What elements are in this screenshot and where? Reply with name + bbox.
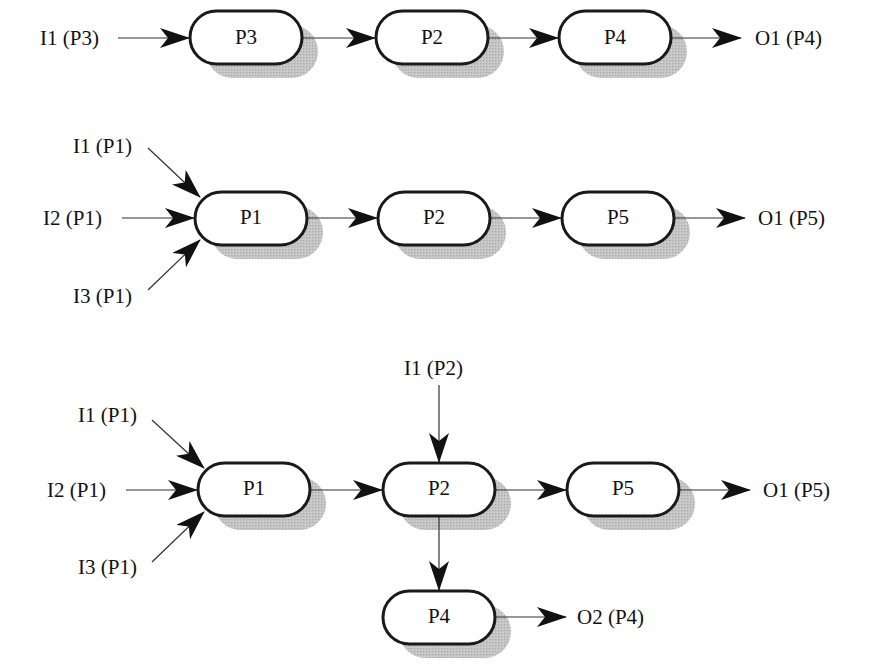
process-node-p5: P5	[562, 192, 674, 245]
process-node-p2: P2	[376, 11, 488, 64]
process-node-p3: P3	[190, 11, 302, 64]
process-node-p2: P2	[378, 192, 490, 245]
edge-input-i3-to-p1	[148, 240, 200, 290]
process-node-p1: P1	[195, 192, 307, 245]
node-label: P1	[240, 205, 262, 229]
output-label-o1: O1 (P5)	[763, 478, 830, 502]
output-label-o1: O1 (P5)	[758, 206, 825, 230]
input-label-i2: I2 (P1)	[43, 206, 102, 230]
process-node-p4: P4	[559, 11, 671, 64]
edge-input-i3-to-p1	[152, 512, 204, 562]
flow-3: P1 P2 P5 P4 I1 (P1) I2 (P1) I3 (P1) I1 (…	[47, 356, 830, 658]
flow-1: P3 P2 P4 I1 (P3) O1 (P4)	[40, 11, 822, 78]
input-label-i1: I1 (P3)	[40, 26, 99, 50]
edge-input-i1-to-p1	[152, 420, 204, 468]
input-label-i1: I1 (P1)	[78, 403, 137, 427]
node-label: P5	[607, 205, 629, 229]
node-label: P1	[243, 476, 265, 500]
process-node-p1: P1	[198, 463, 310, 516]
process-node-p2: P2	[383, 463, 495, 516]
output-label-o2: O2 (P4)	[577, 605, 644, 629]
input-label-i3: I3 (P1)	[73, 284, 132, 308]
flow-2: P1 P2 P5 I1 (P1) I2 (P1) I3 (P1) O1 (P5)	[43, 134, 825, 308]
input-label-i1-p2: I1 (P2)	[404, 356, 463, 380]
node-label: P4	[604, 25, 627, 49]
edge-input-i1-to-p1	[148, 148, 200, 197]
output-label-o1: O1 (P4)	[755, 26, 822, 50]
process-flow-diagram: P3 P2 P4 I1 (P3) O1 (P4) P1	[0, 0, 890, 668]
node-label: P2	[421, 25, 443, 49]
process-node-p5: P5	[567, 463, 679, 516]
node-label: P2	[423, 205, 445, 229]
input-label-i2: I2 (P1)	[47, 478, 106, 502]
input-label-i3: I3 (P1)	[78, 555, 137, 579]
node-label: P4	[428, 604, 451, 628]
node-label: P2	[428, 476, 450, 500]
node-label: P5	[612, 476, 634, 500]
node-label: P3	[235, 25, 257, 49]
input-label-i1: I1 (P1)	[73, 134, 132, 158]
process-node-p4: P4	[383, 591, 495, 644]
